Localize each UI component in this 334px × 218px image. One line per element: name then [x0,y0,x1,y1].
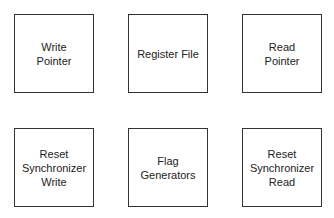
block-label: Write Pointer [37,40,72,68]
block-label: Read Pointer [265,40,300,68]
block-label: Reset Synchronizer Read [250,147,314,189]
block-write-pointer: Write Pointer [14,14,94,93]
block-read-pointer: Read Pointer [242,14,322,93]
block-flag-generators: Flag Generators [128,128,208,207]
block-label: Register File [137,47,199,61]
block-reset-synchronizer-write: Reset Synchronizer Write [14,128,94,207]
block-reset-synchronizer-read: Reset Synchronizer Read [242,128,322,207]
block-label: Flag Generators [140,154,195,182]
block-register-file: Register File [128,14,208,93]
block-label: Reset Synchronizer Write [22,147,86,189]
